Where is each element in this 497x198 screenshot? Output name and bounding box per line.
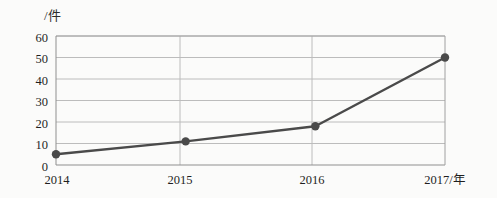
data-point-2014 (52, 150, 60, 158)
series-line (56, 58, 445, 155)
plot-svg (0, 0, 497, 198)
chart-screenshot: /件 60 50 40 30 20 10 0 2014 2015 2016 20… (0, 0, 497, 198)
grid-lines (56, 36, 445, 165)
line-chart: /件 60 50 40 30 20 10 0 2014 2015 2016 20… (0, 0, 497, 198)
data-point-2015 (181, 137, 189, 145)
data-series (52, 53, 449, 158)
data-point-2016 (311, 122, 319, 130)
series-markers (52, 53, 449, 158)
data-point-2017 (441, 53, 449, 61)
